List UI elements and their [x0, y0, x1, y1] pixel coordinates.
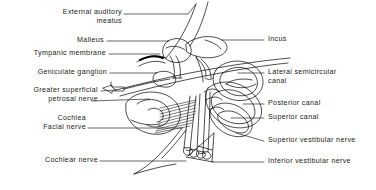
label-greater-superficial-petrosal-nerve: Greater superficial petrosal nerve: [6, 86, 98, 104]
base-contour: [134, 164, 176, 174]
label-posterior-canal: Posterior canal: [268, 99, 368, 108]
label-geniculate-ganglion: Geniculate ganglion: [6, 68, 107, 77]
petrous-bone-plate: [111, 58, 290, 96]
label-facial-nerve: Facial nerve: [18, 123, 86, 132]
label-inferior-vestibular-nerve: Inferior vestibular nerve: [268, 157, 376, 166]
label-superior-vestibular-nerve: Superior vestibular nerve: [268, 136, 376, 145]
label-cochlear-nerve: Cochlear nerve: [16, 156, 98, 165]
label-incus: Incus: [268, 35, 358, 44]
lateral-semicircular-canal-shape: [213, 61, 263, 100]
anatomical-diagram: External auditory meatus Malleus Tympani…: [0, 0, 376, 190]
leader-lines-right: [213, 40, 264, 162]
tympanic-membrane-shape: [140, 56, 163, 60]
label-external-auditory-meatus: External auditory meatus: [12, 8, 122, 26]
label-lateral-semicircular-canal: Lateral semicircular canal: [268, 68, 372, 86]
malleus-shape: [163, 39, 192, 78]
label-tympanic-membrane: Tympanic membrane: [6, 49, 106, 58]
superior-canal-shape: [210, 103, 252, 137]
label-superior-canal: Superior canal: [268, 113, 368, 122]
vestibule-shape: [204, 89, 224, 110]
label-malleus: Malleus: [22, 36, 104, 45]
label-cochlea: Cochlea: [30, 114, 86, 123]
